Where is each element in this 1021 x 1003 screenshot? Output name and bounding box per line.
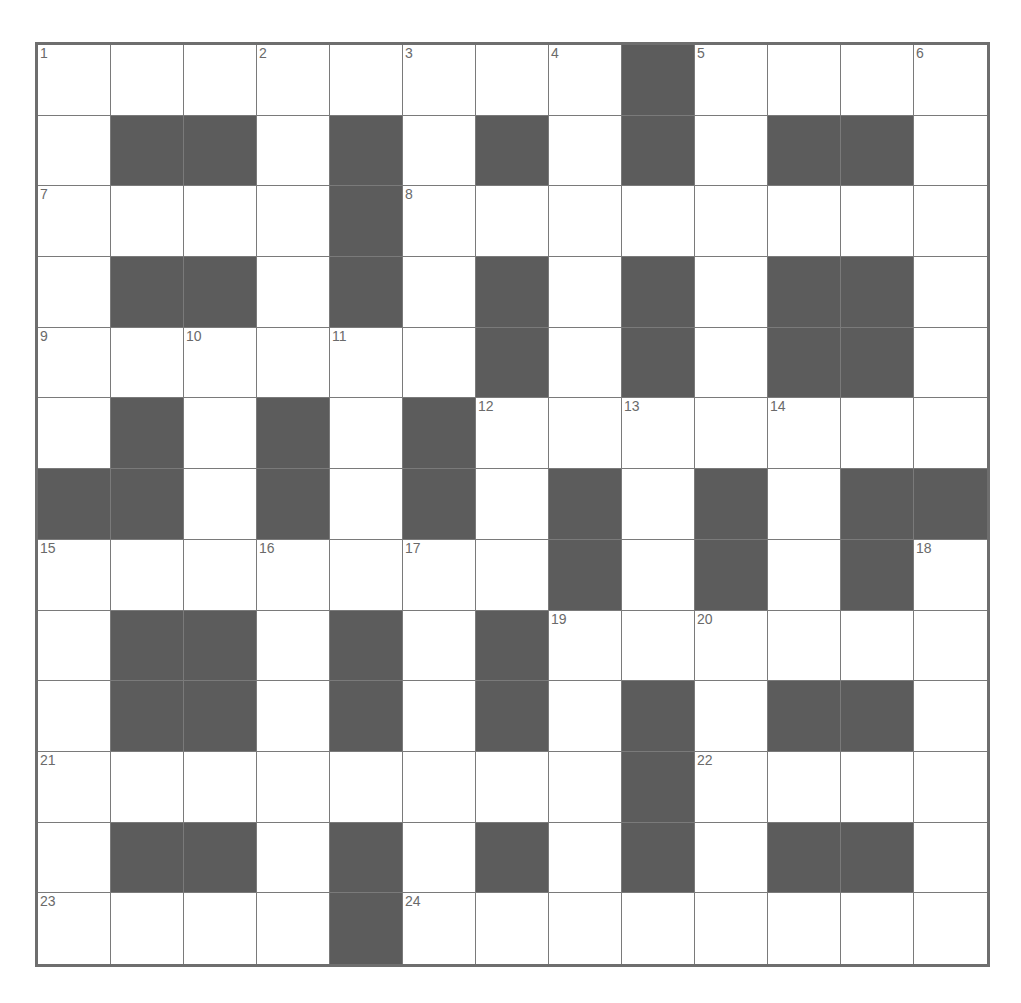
letter-input[interactable] bbox=[330, 398, 402, 468]
letter-cell[interactable] bbox=[257, 893, 330, 964]
letter-input[interactable] bbox=[695, 186, 767, 256]
letter-cell[interactable] bbox=[549, 186, 622, 257]
letter-input[interactable] bbox=[841, 186, 913, 256]
letter-input[interactable] bbox=[38, 45, 110, 115]
letter-input[interactable] bbox=[695, 45, 767, 115]
letter-input[interactable] bbox=[549, 823, 621, 893]
letter-input[interactable] bbox=[403, 823, 475, 893]
letter-cell[interactable]: 22 bbox=[695, 752, 768, 823]
letter-cell[interactable] bbox=[622, 893, 695, 964]
letter-input[interactable] bbox=[768, 752, 840, 822]
letter-cell[interactable]: 23 bbox=[38, 893, 111, 964]
letter-cell[interactable] bbox=[184, 186, 257, 257]
letter-input[interactable] bbox=[403, 45, 475, 115]
letter-input[interactable] bbox=[257, 611, 329, 681]
letter-cell[interactable] bbox=[330, 398, 403, 469]
letter-input[interactable] bbox=[403, 540, 475, 610]
letter-input[interactable] bbox=[549, 398, 621, 468]
letter-input[interactable] bbox=[768, 45, 840, 115]
letter-cell[interactable] bbox=[330, 752, 403, 823]
letter-input[interactable] bbox=[257, 116, 329, 186]
letter-cell[interactable] bbox=[622, 186, 695, 257]
letter-cell[interactable] bbox=[914, 116, 987, 187]
letter-cell[interactable] bbox=[184, 469, 257, 540]
letter-input[interactable] bbox=[695, 752, 767, 822]
letter-cell[interactable] bbox=[914, 186, 987, 257]
letter-cell[interactable] bbox=[111, 893, 184, 964]
letter-cell[interactable] bbox=[695, 186, 768, 257]
letter-cell[interactable] bbox=[38, 611, 111, 682]
letter-cell[interactable] bbox=[622, 540, 695, 611]
letter-cell[interactable] bbox=[38, 681, 111, 752]
letter-cell[interactable] bbox=[549, 398, 622, 469]
letter-cell[interactable] bbox=[476, 469, 549, 540]
letter-cell[interactable] bbox=[549, 257, 622, 328]
letter-input[interactable] bbox=[695, 257, 767, 327]
letter-input[interactable] bbox=[111, 893, 183, 964]
letter-cell[interactable]: 7 bbox=[38, 186, 111, 257]
letter-input[interactable] bbox=[476, 469, 548, 539]
letter-input[interactable] bbox=[184, 398, 256, 468]
letter-input[interactable] bbox=[403, 611, 475, 681]
letter-input[interactable] bbox=[257, 752, 329, 822]
letter-input[interactable] bbox=[622, 186, 694, 256]
letter-cell[interactable] bbox=[403, 116, 476, 187]
letter-cell[interactable]: 6 bbox=[914, 45, 987, 116]
letter-input[interactable] bbox=[257, 45, 329, 115]
letter-cell[interactable] bbox=[38, 823, 111, 894]
letter-input[interactable] bbox=[184, 469, 256, 539]
letter-input[interactable] bbox=[914, 116, 987, 186]
letter-input[interactable] bbox=[403, 328, 475, 398]
letter-input[interactable] bbox=[841, 893, 913, 964]
letter-cell[interactable]: 15 bbox=[38, 540, 111, 611]
letter-input[interactable] bbox=[330, 45, 402, 115]
letter-cell[interactable] bbox=[549, 823, 622, 894]
letter-cell[interactable] bbox=[257, 257, 330, 328]
letter-input[interactable] bbox=[549, 116, 621, 186]
letter-cell[interactable] bbox=[184, 398, 257, 469]
letter-cell[interactable] bbox=[111, 328, 184, 399]
letter-cell[interactable]: 21 bbox=[38, 752, 111, 823]
letter-input[interactable] bbox=[549, 611, 621, 681]
letter-cell[interactable] bbox=[111, 752, 184, 823]
letter-cell[interactable] bbox=[476, 893, 549, 964]
letter-cell[interactable]: 2 bbox=[257, 45, 330, 116]
letter-cell[interactable] bbox=[914, 681, 987, 752]
letter-input[interactable] bbox=[111, 328, 183, 398]
letter-cell[interactable] bbox=[841, 893, 914, 964]
letter-input[interactable] bbox=[330, 540, 402, 610]
letter-cell[interactable] bbox=[768, 893, 841, 964]
letter-cell[interactable] bbox=[914, 257, 987, 328]
letter-input[interactable] bbox=[38, 257, 110, 327]
letter-input[interactable] bbox=[914, 45, 987, 115]
letter-input[interactable] bbox=[476, 45, 548, 115]
letter-input[interactable] bbox=[622, 611, 694, 681]
letter-cell[interactable] bbox=[257, 186, 330, 257]
letter-input[interactable] bbox=[476, 752, 548, 822]
letter-input[interactable] bbox=[330, 469, 402, 539]
letter-input[interactable] bbox=[476, 398, 548, 468]
letter-cell[interactable] bbox=[257, 116, 330, 187]
letter-input[interactable] bbox=[695, 328, 767, 398]
letter-cell[interactable] bbox=[257, 611, 330, 682]
letter-cell[interactable] bbox=[403, 681, 476, 752]
letter-input[interactable] bbox=[184, 186, 256, 256]
letter-input[interactable] bbox=[768, 540, 840, 610]
letter-input[interactable] bbox=[38, 611, 110, 681]
letter-input[interactable] bbox=[622, 893, 694, 964]
letter-input[interactable] bbox=[403, 893, 475, 964]
letter-cell[interactable] bbox=[38, 398, 111, 469]
letter-cell[interactable] bbox=[841, 752, 914, 823]
letter-input[interactable] bbox=[184, 45, 256, 115]
letter-input[interactable] bbox=[914, 398, 987, 468]
letter-cell[interactable] bbox=[257, 823, 330, 894]
letter-cell[interactable] bbox=[111, 45, 184, 116]
letter-input[interactable] bbox=[549, 752, 621, 822]
letter-cell[interactable]: 10 bbox=[184, 328, 257, 399]
letter-cell[interactable] bbox=[914, 823, 987, 894]
letter-cell[interactable] bbox=[476, 186, 549, 257]
letter-input[interactable] bbox=[403, 116, 475, 186]
letter-input[interactable] bbox=[768, 611, 840, 681]
letter-input[interactable] bbox=[184, 893, 256, 964]
letter-cell[interactable]: 20 bbox=[695, 611, 768, 682]
